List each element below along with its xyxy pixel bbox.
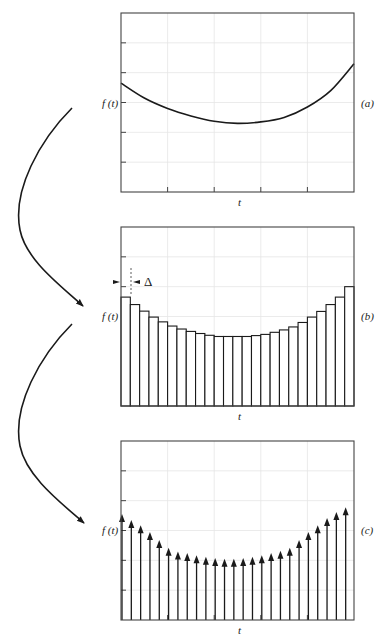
- staircase-bar: [186, 331, 195, 406]
- panel-b-staircase: [121, 227, 354, 406]
- curved-arrow-a-to-b: [19, 108, 83, 306]
- staircase-bar: [317, 311, 326, 406]
- staircase-bar: [289, 327, 298, 406]
- figure-canvas: [0, 0, 384, 644]
- impulse-arrowhead-icon: [305, 532, 311, 540]
- panel-c-xlabel: t: [238, 625, 241, 636]
- delta-right-arrowhead-icon: [133, 280, 140, 284]
- impulse-arrowhead-icon: [119, 514, 125, 522]
- staircase-bar: [270, 332, 279, 406]
- impulse-arrowhead-icon: [343, 507, 349, 515]
- delta-symbol: Δ: [144, 275, 152, 288]
- staircase-bar: [307, 317, 316, 406]
- panel-b-ylabel: f (t): [102, 311, 118, 322]
- impulse-arrowhead-icon: [166, 548, 172, 556]
- panel-c-ylabel: f (t): [102, 525, 118, 536]
- impulse-arrowhead-icon: [212, 558, 218, 566]
- staircase-bar: [140, 311, 149, 406]
- staircase-bar: [261, 334, 270, 406]
- panel-b-xlabel: t: [238, 411, 241, 422]
- impulse-arrowhead-icon: [296, 540, 302, 548]
- panel-a-ylabel: f (t): [102, 98, 118, 109]
- staircase-bar: [335, 297, 344, 406]
- delta-left-arrowhead-icon: [113, 280, 120, 284]
- panel-c-impulses: [119, 441, 354, 620]
- staircase-bar: [279, 330, 288, 406]
- impulse-arrowhead-icon: [156, 540, 162, 548]
- staircase-bar: [130, 305, 139, 406]
- impulse-arrowhead-icon: [287, 548, 293, 556]
- staircase-bar: [149, 317, 158, 406]
- transition-arrows: [19, 108, 84, 523]
- panel-a-xlabel: t: [238, 197, 241, 208]
- impulse-arrowhead-icon: [147, 532, 153, 540]
- staircase-bar: [196, 334, 205, 406]
- impulse-arrowhead-icon: [194, 555, 200, 563]
- staircase-bar: [298, 322, 307, 406]
- impulse-arrowhead-icon: [249, 557, 255, 565]
- impulse-arrowhead-icon: [240, 558, 246, 566]
- impulse-arrowhead-icon: [315, 525, 321, 533]
- staircase-bar: [326, 305, 335, 406]
- impulse-arrowhead-icon: [268, 553, 274, 561]
- impulse-arrowhead-icon: [138, 525, 144, 533]
- staircase-bar: [168, 326, 177, 406]
- impulse-arrowhead-icon: [259, 555, 265, 563]
- staircase-bar: [251, 336, 260, 406]
- impulse-arrowhead-icon: [277, 551, 283, 559]
- impulse-arrowhead-icon: [184, 553, 190, 561]
- curved-arrow-b-to-c: [19, 324, 84, 523]
- staircase-bar: [205, 335, 214, 406]
- staircase-bar: [158, 322, 167, 406]
- staircase-bar: [121, 297, 130, 406]
- staircase-bar: [233, 336, 242, 406]
- impulse-arrowhead-icon: [324, 518, 330, 526]
- panel-a-continuous: [121, 13, 354, 192]
- impulse-arrowhead-icon: [203, 557, 209, 565]
- delta-annotation: [113, 268, 140, 296]
- impulse-arrowhead-icon: [333, 512, 339, 520]
- panel-b-tag: (b): [361, 311, 374, 322]
- impulse-arrowhead-icon: [128, 520, 134, 528]
- staircase-bar: [214, 336, 223, 406]
- staircase-bar: [345, 287, 354, 406]
- staircase-bar: [224, 336, 233, 406]
- panel-a-tag: (a): [361, 98, 374, 109]
- panel-c-tag: (c): [361, 525, 373, 536]
- staircase-bar: [242, 336, 251, 406]
- staircase-bar: [177, 329, 186, 406]
- impulse-arrowhead-icon: [175, 551, 181, 559]
